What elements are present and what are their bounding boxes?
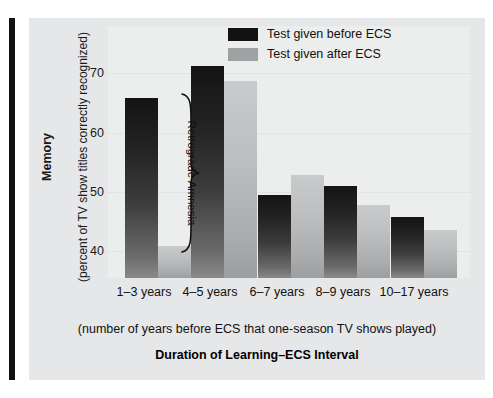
- retrograde-amnesia-annotation: Retrograde Amnesia: [178, 92, 234, 254]
- bar-after-6-7-years: [291, 175, 324, 278]
- y-axis-ticks: 70 60 50 40: [60, 0, 104, 362]
- legend-light-swatch-icon: [228, 48, 258, 61]
- x-tick-label-2: 4–5 years: [174, 285, 246, 299]
- gridline-70: [108, 73, 470, 74]
- legend-item-after: Test given after ECS: [228, 47, 391, 61]
- gridline-50: [108, 192, 470, 193]
- y-tick-50: 50: [64, 185, 104, 199]
- legend-dark-swatch-icon: [228, 28, 258, 41]
- x-tick-label-3: 6–7 years: [241, 285, 313, 299]
- bar-after-10-17-years: [424, 230, 457, 278]
- x-tick-label-4: 8–9 years: [307, 285, 379, 299]
- x-axis-title: Duration of Learning–ECS Interval: [29, 348, 485, 362]
- gridline-60: [108, 133, 470, 134]
- x-tick-label-5: 10–17 years: [372, 285, 456, 299]
- figure-container: Memory (percent of TV show titles correc…: [0, 0, 493, 398]
- annotation-label: Retrograde Amnesia: [184, 92, 200, 254]
- legend-label-before: Test given before ECS: [267, 27, 391, 41]
- x-tick-label-1: 1–3 years: [108, 285, 180, 299]
- legend-item-before: Test given before ECS: [228, 27, 391, 41]
- y-tick-40: 40: [64, 244, 104, 258]
- legend-label-after: Test given after ECS: [267, 47, 381, 61]
- bar-before-6-7-years: [258, 195, 291, 278]
- y-tick-60: 60: [64, 126, 104, 140]
- bar-before-10-17-years: [391, 217, 424, 278]
- bar-before-1-3-years: [125, 98, 158, 278]
- x-axis-subtitle: (number of years before ECS that one-sea…: [29, 322, 485, 336]
- bar-after-8-9-years: [357, 205, 390, 278]
- y-axis-title: Memory: [40, 32, 54, 282]
- y-tick-70: 70: [64, 66, 104, 80]
- chart-legend: Test given before ECS Test given after E…: [228, 27, 391, 67]
- bar-before-8-9-years: [324, 186, 357, 278]
- page-edge-bar: [9, 18, 15, 380]
